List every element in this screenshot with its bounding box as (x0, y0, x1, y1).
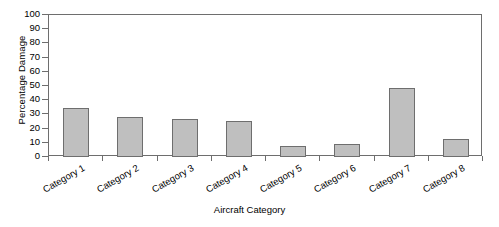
x-axis-tick (374, 156, 375, 161)
y-axis-tick-label: 80 (4, 37, 40, 47)
bar (334, 144, 360, 157)
y-axis-tick-label: 100 (4, 9, 40, 19)
y-axis-tick-label: 90 (4, 23, 40, 33)
x-axis-tick-label: Category 4 (199, 162, 250, 198)
y-axis-tick-label: 60 (4, 66, 40, 76)
x-axis-title: Aircraft Category (0, 204, 499, 216)
x-axis-tick-label: Category 2 (90, 162, 141, 198)
x-axis-tick (428, 156, 429, 161)
bar (389, 88, 415, 157)
bar (63, 108, 89, 157)
x-axis-tick-label: Category 6 (307, 162, 358, 198)
y-axis-tick-label: 0 (4, 151, 40, 161)
plot-area (48, 14, 482, 156)
y-axis-tick-label: 20 (4, 123, 40, 133)
bar (117, 117, 143, 157)
x-axis-tick-label: Category 7 (362, 162, 413, 198)
x-axis-tick (48, 156, 49, 161)
y-axis-tick-label: 50 (4, 80, 40, 90)
y-axis-tick-label: 70 (4, 52, 40, 62)
bar (226, 121, 252, 157)
x-axis-tick-label: Category 1 (36, 162, 87, 198)
y-axis-tick-label: 40 (4, 94, 40, 104)
x-axis-tick (265, 156, 266, 161)
x-axis-tick-label: Category 3 (145, 162, 196, 198)
bar (280, 146, 306, 157)
x-axis-tick-label: Category 8 (416, 162, 467, 198)
x-axis-tick (482, 156, 483, 161)
bar-chart: Percentage Damage 0102030405060708090100… (0, 0, 499, 227)
x-axis-tick (102, 156, 103, 161)
x-axis-tick-label: Category 5 (253, 162, 304, 198)
y-axis-tick-label: 30 (4, 108, 40, 118)
x-axis-tick (157, 156, 158, 161)
bar (172, 119, 198, 157)
x-axis-tick (211, 156, 212, 161)
x-axis-tick (319, 156, 320, 161)
y-axis-tick-label: 10 (4, 137, 40, 147)
bar (443, 139, 469, 157)
